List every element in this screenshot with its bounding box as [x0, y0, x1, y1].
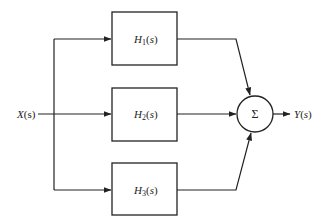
block-h1: H1(s)	[112, 12, 177, 65]
svg-text:H1(s): H1(s)	[133, 33, 158, 47]
block-h2: H2(s)	[112, 88, 177, 141]
block-diagram: X(s) H1(s) H2(s) H3(s) Σ Y(s)	[0, 0, 334, 220]
svg-text:H3(s): H3(s)	[133, 184, 158, 198]
input-label: X(s)	[16, 108, 36, 121]
h1-to-sum	[177, 39, 250, 95]
h3-to-sum	[177, 133, 251, 190]
block-h3: H3(s)	[112, 163, 177, 215]
output-label: Y(s)	[294, 108, 312, 121]
summing-junction: Σ	[237, 96, 273, 132]
svg-text:H2(s): H2(s)	[133, 108, 158, 122]
sigma-icon: Σ	[252, 107, 259, 121]
